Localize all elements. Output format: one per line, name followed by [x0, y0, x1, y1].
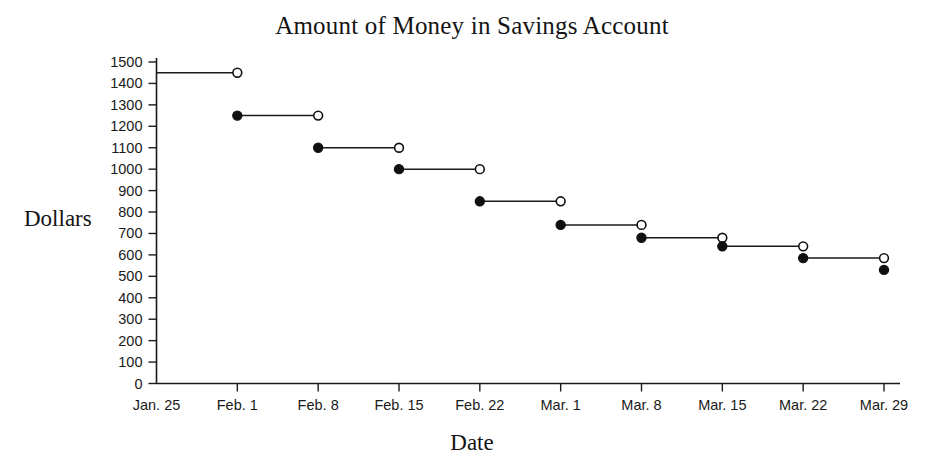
x-tick-label: Feb. 8 — [298, 397, 339, 413]
data-point-open — [314, 111, 323, 120]
step-series — [157, 68, 889, 274]
data-point-open — [637, 220, 646, 229]
plot-area: 0100200300400500600700800900100011001200… — [0, 0, 944, 473]
data-point-closed — [314, 143, 323, 152]
data-point-closed — [799, 254, 808, 263]
y-tick-label: 1300 — [110, 97, 142, 113]
data-point-open — [880, 254, 889, 263]
y-tick-label: 1000 — [110, 161, 142, 177]
y-tick-label: 1100 — [111, 140, 142, 156]
data-point-open — [799, 242, 808, 251]
x-tick-label: Mar. 29 — [860, 397, 908, 413]
data-point-open — [718, 233, 727, 242]
x-tick-label: Mar. 22 — [779, 397, 827, 413]
y-tick-label: 0 — [134, 376, 142, 392]
y-tick-label: 700 — [118, 225, 142, 241]
y-tick-label: 200 — [118, 333, 142, 349]
x-tick-label: Feb. 15 — [374, 397, 423, 413]
data-point-closed — [475, 197, 484, 206]
x-tick-label: Mar. 1 — [541, 397, 581, 413]
y-tick-label: 300 — [118, 311, 142, 327]
x-tick-label: Mar. 15 — [698, 397, 746, 413]
x-tick-label: Feb. 22 — [455, 397, 504, 413]
y-tick-label: 800 — [118, 204, 142, 220]
data-point-closed — [637, 233, 646, 242]
savings-account-chart: Amount of Money in Savings Account Dolla… — [0, 0, 944, 473]
y-tick-label: 1500 — [110, 54, 142, 70]
y-tick-label: 400 — [118, 290, 142, 306]
data-point-open — [395, 143, 404, 152]
data-point-closed — [556, 220, 565, 229]
x-tick-label: Feb. 1 — [217, 397, 258, 413]
x-tick-label: Mar. 8 — [621, 397, 661, 413]
data-point-closed — [879, 265, 888, 274]
data-point-closed — [233, 111, 242, 120]
y-tick-group: 0100200300400500600700800900100011001200… — [110, 54, 156, 392]
y-tick-label: 100 — [118, 354, 142, 370]
y-tick-label: 1400 — [110, 75, 142, 91]
data-point-open — [475, 165, 484, 174]
data-point-open — [556, 197, 565, 206]
data-point-closed — [394, 165, 403, 174]
data-point-open — [233, 68, 242, 77]
y-tick-label: 1200 — [110, 118, 142, 134]
data-point-closed — [718, 242, 727, 251]
x-tick-label: Jan. 25 — [133, 397, 181, 413]
x-tick-group: Jan. 25Feb. 1Feb. 8Feb. 15Feb. 22Mar. 1M… — [133, 384, 908, 413]
y-tick-label: 600 — [118, 247, 142, 263]
y-tick-label: 500 — [118, 268, 142, 284]
y-tick-label: 900 — [118, 183, 142, 199]
